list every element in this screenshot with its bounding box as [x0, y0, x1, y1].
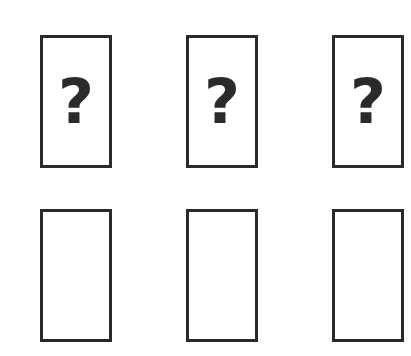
hidden-card-1[interactable]: ?	[40, 35, 112, 168]
question-mark-icon: ?	[350, 71, 386, 133]
empty-slot-1[interactable]	[40, 209, 112, 342]
empty-slot-2[interactable]	[186, 209, 258, 342]
empty-slot-3[interactable]	[332, 209, 404, 342]
hidden-card-3[interactable]: ?	[332, 35, 404, 168]
hidden-card-2[interactable]: ?	[186, 35, 258, 168]
question-mark-icon: ?	[204, 71, 240, 133]
question-mark-icon: ?	[58, 71, 94, 133]
